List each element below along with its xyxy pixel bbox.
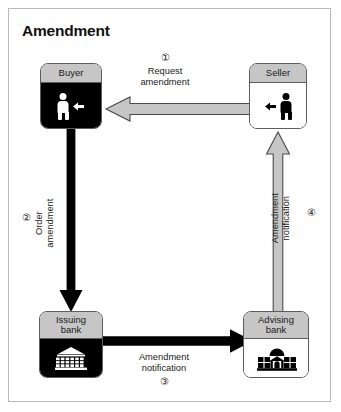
step-number-1: ① — [153, 52, 177, 64]
arrow-left-icon — [72, 100, 85, 113]
node-issuing-bank[interactable]: Issuing bank — [39, 311, 103, 378]
node-seller-body — [250, 83, 306, 129]
node-advising-bank[interactable]: Advising bank — [243, 311, 309, 378]
node-buyer-body — [41, 83, 101, 129]
connector-order-amendment — [58, 128, 84, 314]
node-advising-bank-body — [244, 339, 308, 378]
step-number-4: ④ — [302, 207, 320, 219]
node-issuing-bank-body — [40, 339, 102, 378]
person-icon — [280, 93, 292, 120]
edge-label-amendment-notification-banks: Amendment notification — [122, 352, 206, 374]
node-issuing-bank-label: Issuing bank — [40, 312, 102, 339]
step-number-3: ③ — [152, 376, 176, 388]
edge-label-amendment-notification-seller: Amendment notification — [270, 176, 292, 260]
arrow-left-icon — [264, 100, 277, 113]
node-buyer[interactable]: Buyer — [40, 63, 102, 129]
node-advising-bank-label: Advising bank — [244, 312, 308, 339]
edge-label-request-amendment: Request amendment — [125, 66, 205, 88]
node-buyer-label: Buyer — [41, 64, 101, 83]
person-icon — [57, 93, 69, 120]
page-title: Amendment — [22, 22, 110, 40]
step-number-2: ② — [17, 212, 35, 224]
bank-building-icon — [51, 347, 91, 371]
bank-building-icon — [256, 347, 296, 371]
diagram-canvas: Amendment Buyer — [0, 0, 341, 412]
node-seller[interactable]: Seller — [249, 63, 307, 129]
connector-request-amendment — [104, 96, 252, 122]
edge-label-order-amendment: Order amendment — [34, 183, 56, 263]
node-seller-label: Seller — [250, 64, 306, 83]
